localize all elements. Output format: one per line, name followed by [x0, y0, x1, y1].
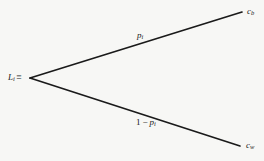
probability-tree-diagram: Li≡ pi 1−pi cb cw: [0, 0, 264, 161]
upper-branch-line: [30, 12, 242, 78]
lower-branch-probability-label: 1−pi: [136, 118, 156, 128]
lower-probability-number: 1: [136, 117, 141, 127]
root-node-label: Li≡: [8, 73, 22, 83]
lower-probability-subscript: i: [154, 120, 156, 127]
upper-branch-probability-label: pi: [137, 31, 143, 41]
upper-probability-subscript: i: [142, 33, 144, 40]
lower-outcome-label: cw: [246, 141, 254, 151]
equivalence-icon: ≡: [15, 72, 22, 82]
lower-branch-line: [30, 78, 240, 146]
tree-branches-graphic: [0, 0, 264, 161]
minus-operator-icon: −: [141, 117, 150, 127]
upper-outcome-label: cb: [247, 7, 254, 17]
lower-outcome-subscript: w: [250, 143, 254, 150]
upper-outcome-subscript: b: [251, 9, 254, 16]
